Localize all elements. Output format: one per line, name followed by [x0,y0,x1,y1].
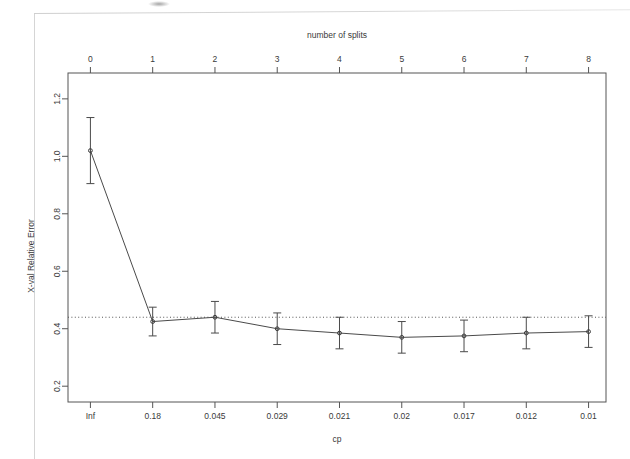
chart-canvas: 012345678 number of splits Inf0.180.0450… [0,0,630,459]
y-axis-tick-labels: 0.20.40.60.81.01.2 [52,93,62,392]
cp-tick-label-0: Inf [86,411,96,421]
plot-frame [68,73,606,402]
cp-tick-label-5: 0.02 [393,411,410,421]
y-tick-label-1.2: 1.2 [52,93,62,105]
bottom-axis-ticks [90,402,588,408]
top-tick-label-1: 1 [150,54,155,64]
top-tick-label-3: 3 [275,54,280,64]
xval-error-line [90,151,588,338]
y-tick-label-0.8: 0.8 [52,208,62,220]
top-tick-label-8: 8 [586,54,591,64]
top-axis-ticks [90,67,588,73]
top-axis-title: number of splits [307,30,367,40]
cp-tick-label-6: 0.017 [453,411,475,421]
cp-tick-label-3: 0.029 [267,411,289,421]
bottom-axis-tick-labels: Inf0.180.0450.0290.0210.020.0170.0120.01 [86,411,597,421]
top-tick-label-0: 0 [88,54,93,64]
y-tick-label-1.0: 1.0 [52,150,62,162]
top-tick-label-4: 4 [337,54,342,64]
y-axis-ticks [62,99,68,386]
y-tick-label-0.6: 0.6 [52,265,62,277]
cp-tick-label-4: 0.021 [329,411,351,421]
data-points [89,149,591,340]
top-tick-label-7: 7 [524,54,529,64]
cp-tick-label-7: 0.012 [516,411,538,421]
y-tick-label-0.2: 0.2 [52,380,62,392]
y-tick-label-0.4: 0.4 [52,323,62,335]
top-tick-label-6: 6 [462,54,467,64]
cp-tick-label-2: 0.045 [204,411,226,421]
x-axis-title: cp [333,434,342,444]
top-tick-label-5: 5 [399,54,404,64]
top-axis-tick-labels: 012345678 [88,54,591,64]
error-bars [86,118,592,354]
cp-plot: 012345678 number of splits Inf0.180.0450… [0,0,630,459]
cp-tick-label-8: 0.01 [580,411,597,421]
y-axis-title: X-val Relative Error [26,219,36,293]
cp-tick-label-1: 0.18 [144,411,161,421]
top-tick-label-2: 2 [213,54,218,64]
